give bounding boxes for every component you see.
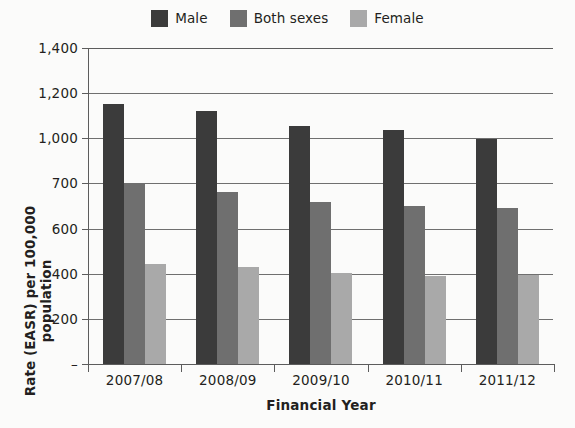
x-tick-mark bbox=[554, 364, 555, 372]
bar-female-2010-11[interactable] bbox=[425, 276, 446, 364]
y-tick-label: 400 bbox=[0, 266, 78, 282]
y-tick-label: 1,000 bbox=[0, 130, 78, 146]
bar-female-2008-09[interactable] bbox=[238, 267, 259, 364]
legend-item-male[interactable]: Male bbox=[151, 10, 207, 27]
legend-swatch-both-sexes bbox=[230, 10, 247, 27]
x-tick-mark bbox=[461, 364, 462, 372]
legend-label: Female bbox=[374, 12, 423, 26]
bar-female-2009-10[interactable] bbox=[331, 273, 352, 364]
legend-label: Both sexes bbox=[254, 12, 329, 26]
bar-both-sexes-2008-09[interactable] bbox=[217, 192, 238, 364]
bar-both-sexes-2007-08[interactable] bbox=[124, 183, 145, 364]
bar-group bbox=[274, 48, 367, 364]
x-tick-label: 2011/12 bbox=[479, 372, 536, 388]
bar-group bbox=[461, 48, 554, 364]
y-tick-label: 200 bbox=[0, 311, 78, 327]
x-tick-label: 2008/09 bbox=[199, 372, 256, 388]
y-tick-label: 700 bbox=[0, 175, 78, 191]
bars-layer bbox=[88, 48, 554, 364]
bar-male-2008-09[interactable] bbox=[196, 111, 217, 364]
y-tick-label: 1,200 bbox=[0, 85, 78, 101]
y-axis-ticks: 1,4001,2001,000700600400200– bbox=[0, 0, 78, 428]
bar-group bbox=[181, 48, 274, 364]
bar-group bbox=[368, 48, 461, 364]
bar-male-2011-12[interactable] bbox=[476, 139, 497, 364]
x-tick-label: 2010/11 bbox=[385, 372, 442, 388]
x-tick-mark bbox=[368, 364, 369, 372]
legend-swatch-male bbox=[151, 10, 168, 27]
x-axis-title: Financial Year bbox=[88, 397, 554, 413]
bar-male-2010-11[interactable] bbox=[383, 130, 404, 364]
x-tick-mark bbox=[181, 364, 182, 372]
bar-chart: MaleBoth sexesFemale Rate (EASR) per 100… bbox=[0, 0, 575, 428]
bar-male-2009-10[interactable] bbox=[289, 126, 310, 364]
x-tick-mark bbox=[88, 364, 89, 372]
bar-male-2007-08[interactable] bbox=[103, 104, 124, 364]
legend-item-female[interactable]: Female bbox=[350, 10, 423, 27]
y-tick-label: 600 bbox=[0, 221, 78, 237]
bar-both-sexes-2009-10[interactable] bbox=[310, 202, 331, 365]
legend-item-both-sexes[interactable]: Both sexes bbox=[230, 10, 329, 27]
x-axis-line bbox=[88, 364, 554, 365]
bar-group bbox=[88, 48, 181, 364]
bar-female-2007-08[interactable] bbox=[145, 264, 166, 364]
legend-swatch-female bbox=[350, 10, 367, 27]
x-tick-mark bbox=[274, 364, 275, 372]
legend-label: Male bbox=[175, 12, 207, 26]
y-tick-label: – bbox=[0, 356, 78, 372]
bar-both-sexes-2010-11[interactable] bbox=[404, 206, 425, 364]
y-tick-label: 1,400 bbox=[0, 40, 78, 56]
bar-both-sexes-2011-12[interactable] bbox=[497, 208, 518, 364]
x-tick-label: 2009/10 bbox=[292, 372, 349, 388]
x-tick-label: 2007/08 bbox=[106, 372, 163, 388]
bar-female-2011-12[interactable] bbox=[518, 275, 539, 364]
chart-legend: MaleBoth sexesFemale bbox=[0, 10, 575, 27]
